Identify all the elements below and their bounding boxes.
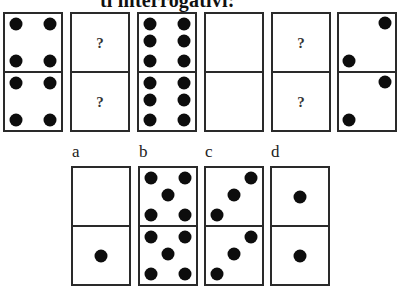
pip-dot-icon	[178, 172, 191, 185]
pip-dot-icon	[95, 249, 108, 262]
question-mark-icon: ?	[297, 34, 305, 51]
option-label-a: a	[72, 142, 80, 162]
pip-dot-icon	[294, 190, 307, 203]
option-domino-a[interactable]	[71, 166, 131, 286]
sequence-domino-1	[3, 12, 63, 132]
domino-top-half: ?	[72, 14, 128, 73]
pip-dot-icon	[144, 77, 157, 90]
option-label-b: b	[139, 142, 148, 162]
pip-dot-icon	[162, 189, 175, 202]
pip-dot-icon	[378, 17, 391, 30]
sequence-domino-4	[204, 12, 264, 132]
pip-dot-icon	[177, 94, 190, 107]
domino-top-half	[206, 168, 262, 227]
domino-top-half	[139, 14, 195, 73]
pip-dot-icon	[144, 94, 157, 107]
domino-bottom-half: ?	[72, 73, 128, 130]
domino-bottom-half	[339, 73, 395, 130]
domino-bottom-half	[206, 73, 262, 130]
domino-top-half	[73, 168, 129, 227]
pip-dot-icon	[43, 77, 56, 90]
pip-dot-icon	[10, 54, 23, 67]
option-domino-b[interactable]	[138, 166, 198, 286]
pip-dot-icon	[228, 248, 241, 261]
pip-dot-icon	[178, 208, 191, 221]
pip-dot-icon	[177, 35, 190, 48]
option-domino-d[interactable]	[270, 166, 330, 286]
pip-dot-icon	[343, 113, 356, 126]
pip-dot-icon	[177, 18, 190, 31]
pip-dot-icon	[244, 231, 257, 244]
question-mark-icon: ?	[297, 93, 305, 110]
pip-dot-icon	[145, 172, 158, 185]
puzzle-instruction-title: ti interrogativi:	[100, 0, 235, 12]
pip-dot-icon	[145, 267, 158, 280]
domino-top-half	[206, 14, 262, 73]
domino-bottom-half	[206, 227, 262, 284]
question-mark-icon: ?	[96, 93, 104, 110]
option-domino-c[interactable]	[204, 166, 264, 286]
pip-dot-icon	[228, 189, 241, 202]
pip-dot-icon	[10, 113, 23, 126]
pip-dot-icon	[144, 54, 157, 67]
pip-dot-icon	[145, 231, 158, 244]
option-label-c: c	[205, 142, 213, 162]
domino-top-half	[5, 14, 61, 73]
pip-dot-icon	[178, 267, 191, 280]
pip-dot-icon	[43, 18, 56, 31]
pip-dot-icon	[177, 113, 190, 126]
pip-dot-icon	[211, 267, 224, 280]
domino-bottom-half	[73, 227, 129, 284]
pip-dot-icon	[10, 77, 23, 90]
domino-bottom-half	[272, 227, 328, 284]
option-label-d: d	[271, 142, 280, 162]
sequence-domino-2: ??	[70, 12, 130, 132]
pip-dot-icon	[378, 76, 391, 89]
pip-dot-icon	[178, 231, 191, 244]
pip-dot-icon	[43, 54, 56, 67]
domino-bottom-half	[5, 73, 61, 130]
pip-dot-icon	[162, 248, 175, 261]
domino-bottom-half	[139, 73, 195, 130]
sequence-domino-3	[137, 12, 197, 132]
question-mark-icon: ?	[96, 34, 104, 51]
pip-dot-icon	[211, 208, 224, 221]
pip-dot-icon	[43, 113, 56, 126]
domino-bottom-half: ?	[273, 73, 329, 130]
domino-top-half	[272, 168, 328, 227]
pip-dot-icon	[177, 54, 190, 67]
pip-dot-icon	[294, 249, 307, 262]
pip-dot-icon	[145, 208, 158, 221]
pip-dot-icon	[144, 18, 157, 31]
sequence-domino-5: ??	[271, 12, 331, 132]
pip-dot-icon	[177, 77, 190, 90]
domino-top-half: ?	[273, 14, 329, 73]
sequence-domino-6	[337, 12, 397, 132]
domino-top-half	[339, 14, 395, 73]
domino-bottom-half	[140, 227, 196, 284]
domino-top-half	[140, 168, 196, 227]
pip-dot-icon	[343, 54, 356, 67]
pip-dot-icon	[144, 113, 157, 126]
pip-dot-icon	[10, 18, 23, 31]
pip-dot-icon	[144, 35, 157, 48]
pip-dot-icon	[244, 172, 257, 185]
